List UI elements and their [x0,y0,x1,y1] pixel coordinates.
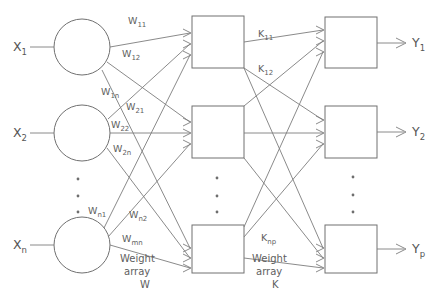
hidden-node-box-n [192,225,244,273]
output-ellipsis-dot-2 [352,194,355,197]
input-ellipsis-dot-3 [77,211,80,214]
hidden-ellipsis-dot-2 [216,195,219,198]
weight-label-knp: Knp [261,232,277,246]
output-node-box-2 [325,106,377,158]
weight-label-w21: W21 [126,101,144,115]
output-label-1: Y1 [411,35,425,53]
input-ellipsis-dot-2 [77,195,80,198]
output-label-2: Y2 [411,124,425,142]
hidden-node-box-2 [192,106,244,158]
output-ellipsis-dot-1 [352,176,355,179]
input-label-2: X2 [13,125,27,143]
neural-network-diagram: X1 X2 Xn [0,0,440,300]
hidden-ellipsis-dot-1 [216,177,219,180]
caption-weight-array-k-line2: array [256,266,282,277]
caption-weight-array-w-line2: array [124,266,150,277]
network-canvas: X1 X2 Xn [0,0,440,300]
edge-kn1 [244,52,323,227]
hidden-node-box-1 [192,16,244,68]
weight-label-w22: W22 [111,119,129,133]
edge-k11 [244,30,323,42]
output-ellipsis-dot-3 [352,211,355,214]
weight-label-wn2: Wn2 [129,209,147,223]
input-neuron-n [54,217,110,273]
edge-wn1 [104,55,190,228]
input-label-1: X1 [13,39,27,57]
input-label-n: Xn [13,237,27,255]
input-neuron-1 [54,19,110,75]
edge-k2p [244,158,323,258]
edge-w12 [107,62,190,122]
caption-weight-array-w-line3: W [140,279,150,290]
weight-label-w12: W12 [122,48,140,62]
edge-w21 [108,44,190,119]
output-label-p: Yp [411,241,425,259]
weight-label-k12: K12 [258,63,273,77]
weight-label-w2n: W2n [113,143,131,157]
weight-label-wmn: Wmn [122,233,143,247]
edge-k21 [244,41,323,106]
weight-label-w1n: W1n [101,86,119,100]
weight-label-wn1: Wn1 [88,205,106,219]
caption-weight-array-k-line1: Weight [252,253,287,264]
weight-label-w11: W11 [128,15,146,29]
caption-weight-array-k-line3: K [272,279,279,290]
caption-weight-array-w-line1: Weight [120,253,155,264]
input-neuron-2 [54,105,110,161]
edge-w11 [110,33,190,47]
input-ellipsis-dot-1 [77,178,80,181]
hidden-ellipsis-dot-3 [216,211,219,214]
output-node-box-p [325,225,377,273]
output-node-box-1 [325,17,377,68]
